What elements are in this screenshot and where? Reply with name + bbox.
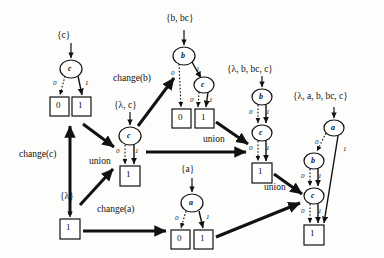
operation-label-change-b: change(b) — [113, 74, 151, 84]
operation-label-change-c: change(c) — [19, 150, 56, 160]
arrow-union-1b — [80, 169, 113, 205]
terminal-c-0: 0 — [56, 101, 61, 110]
bdd-node-c-2: c — [201, 81, 205, 89]
operation-label-union-3: union — [264, 183, 286, 193]
operation-label-union-1: union — [89, 157, 111, 167]
bdd-node-a-2: a — [189, 199, 193, 207]
set-label-lambda: {λ} — [60, 192, 74, 202]
arrow-union-1a — [83, 124, 114, 147]
edge-bit-a2-1: 1 — [206, 214, 210, 221]
bdd-node-c-1: c — [68, 65, 72, 73]
bdd-node-c-5: c — [311, 192, 315, 200]
bdd-group-labbcc — [304, 107, 344, 245]
bdd-node-c-4: c — [259, 129, 263, 137]
edge-bit-b2-0: 0 — [249, 109, 253, 116]
terminal-a-0: 0 — [177, 234, 182, 243]
terminal-bbc-0: 0 — [178, 113, 183, 122]
arrow-change-b — [138, 78, 174, 126]
edge-bit-c2-0: 0 — [190, 97, 194, 104]
edge-bit-b3-1: 1 — [318, 173, 322, 180]
edge-bit-c3-0: 0 — [116, 148, 120, 155]
edge-bit-c5-1: 1 — [318, 208, 322, 215]
terminal-labbcc-1: 1 — [310, 229, 315, 238]
edge-bit-c5-0: 0 — [301, 208, 305, 215]
set-label-lambda-b-bc-c: {λ, b, bc, c} — [227, 65, 273, 75]
bdd-node-c-3: c — [127, 132, 131, 140]
operation-label-union-2: union — [203, 135, 225, 145]
terminal-c-1: 1 — [78, 101, 83, 110]
edge-bit-c4-0: 0 — [249, 145, 253, 152]
edge-bit-c2-1: 1 — [209, 97, 213, 104]
terminal-lbbcc-1: 1 — [258, 167, 263, 176]
edge-bit-c1-1: 1 — [85, 80, 89, 87]
bdd-node-b-3: b — [311, 157, 315, 165]
set-label-lambda-a-b-bc-c: {λ, a, b, bc, c} — [293, 92, 348, 102]
edge-bit-b3-0: 0 — [301, 173, 305, 180]
set-label-b-bc: {b, bc} — [166, 14, 194, 24]
set-label-c: {c} — [57, 31, 70, 41]
bdd-node-b-2: b — [259, 93, 263, 101]
edge-bit-c3-1: 1 — [135, 148, 139, 155]
terminal-a-1: 1 — [200, 234, 205, 243]
edge-bit-c1-0: 0 — [53, 80, 57, 87]
arrow-union-3b — [216, 203, 300, 237]
bdd-node-b-1: b — [181, 52, 185, 60]
edge-bit-b1-1: 1 — [196, 66, 200, 73]
terminal-lambda-c-1: 1 — [126, 170, 131, 179]
terminal-lambda-1: 1 — [66, 223, 71, 232]
edge-bit-c4-1: 1 — [266, 145, 270, 152]
bdd-node-a-1: a — [331, 124, 335, 132]
edge-bit-a1-0: 0 — [315, 139, 319, 146]
edge-bit-a1-1: 1 — [343, 146, 347, 153]
edge-bit-b2-1: 1 — [266, 109, 270, 116]
bdd-construction-figure: {c} {b, bc} {λ, c} {λ, b, bc, c} {λ, a, … — [0, 0, 384, 258]
edge-bit-b1-0: 0 — [171, 70, 175, 77]
set-label-a: {a} — [181, 165, 194, 175]
operation-label-change-a: change(a) — [97, 205, 134, 215]
edge-bit-a2-0: 0 — [175, 215, 179, 222]
terminal-bbc-1: 1 — [201, 113, 206, 122]
set-label-lambda-c: {λ, c} — [114, 101, 137, 111]
